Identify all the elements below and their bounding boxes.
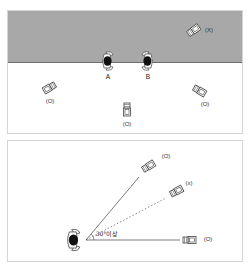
camera-o-horizontal-label: (O): [204, 236, 213, 242]
person-b-label: B: [146, 74, 150, 81]
camera-x-middle-label: (x): [186, 180, 193, 186]
person-b-icon: [142, 52, 153, 70]
camera-o-left-label: (O): [46, 98, 55, 104]
camera-x-label: (X): [205, 27, 213, 33]
person-a-label: A: [106, 74, 110, 81]
bottom-diagram-graphics: [8, 141, 244, 263]
camera-o-right-label: (O): [201, 101, 210, 107]
camera-x-icon: [186, 24, 201, 37]
camera-o-center-label: (O): [123, 121, 132, 127]
person-a-icon: [103, 52, 114, 70]
camera-o-upper-icon: [141, 160, 156, 173]
angle-arc: [91, 234, 94, 240]
camera-o-horizontal-icon: [183, 237, 196, 244]
top-diagram-panel: A B (X) (O) (O) (O): [7, 10, 243, 134]
camera-x-middle-icon: [169, 185, 184, 197]
camera-o-left-icon: [42, 81, 57, 94]
camera-o-right-icon: [192, 84, 207, 97]
camera-o-upper-label: (O): [162, 153, 171, 159]
camera-o-center-icon: [124, 103, 131, 116]
angle-label: 30°이상: [96, 231, 119, 237]
bottom-diagram-panel: (O) (x) (O) 30°이상: [7, 140, 243, 262]
subject-person-icon: [68, 229, 80, 250]
